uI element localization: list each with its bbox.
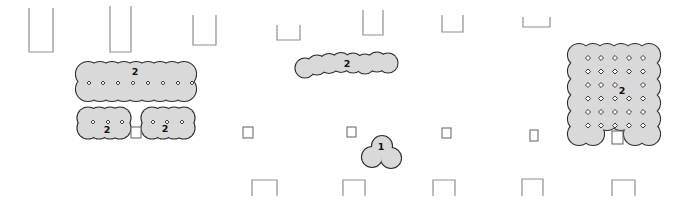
small-square-structure (530, 130, 538, 141)
site-plan-svg: 222212 (0, 0, 675, 202)
canopy-blob-b: 2 (78, 108, 131, 139)
open-bottom-structure (433, 180, 455, 196)
open-top-structure (110, 6, 131, 52)
count-label-f: 2 (619, 85, 626, 96)
small-square-structure (243, 127, 253, 138)
count-label-c: 2 (162, 123, 169, 134)
open-top-structure (523, 17, 550, 27)
count-label-d: 2 (344, 58, 351, 69)
small-square-structure (612, 131, 623, 144)
canopy-blob-d: 2 (296, 53, 398, 78)
canopy-blob-e: 1 (362, 136, 401, 168)
count-label-e: 1 (378, 141, 385, 152)
count-label-b: 2 (104, 124, 111, 135)
small-square-structure (131, 127, 141, 138)
small-square-structure (442, 128, 451, 138)
open-bottom-structure (522, 179, 543, 196)
open-top-structure (442, 15, 463, 32)
open-bottom-structure (343, 180, 365, 196)
open-bottom-structure (612, 180, 635, 196)
canopy-blob-a: 2 (76, 62, 196, 101)
small-square-structure (347, 127, 356, 137)
open-bottom-structure (252, 180, 277, 196)
open-top-structure (277, 25, 300, 40)
count-label-a: 2 (132, 66, 139, 77)
open-top-structure (193, 15, 216, 45)
open-top-structure (363, 10, 383, 35)
canopy-blob-c: 2 (142, 108, 195, 139)
open-top-structure (29, 8, 53, 52)
site-plan-figure: 222212 (0, 0, 675, 202)
canopy-blob-f: 2 (568, 44, 660, 145)
